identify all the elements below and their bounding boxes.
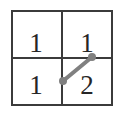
cell-value-top-right: 1: [62, 30, 112, 57]
diagram-canvas: 1 1 1 2: [0, 0, 126, 117]
cell-value-top-left: 1: [11, 30, 61, 57]
cell-value-bottom-left: 1: [11, 72, 61, 99]
grid-and-segment-svg: [0, 0, 126, 117]
cell-value-bottom-right: 2: [62, 72, 112, 99]
